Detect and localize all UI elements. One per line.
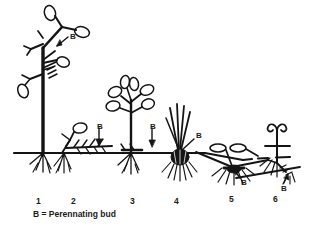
- plant-number-2: 2: [71, 196, 76, 206]
- plant-number-6: 6: [273, 194, 278, 204]
- figure-caption: B = Perennating bud: [33, 209, 116, 219]
- bud-label-4: B: [196, 131, 202, 140]
- plant-5-rhizome: [196, 144, 268, 185]
- plant-number-3: 3: [130, 196, 135, 206]
- ground-line: [14, 153, 300, 178]
- plant-number-5: 5: [229, 194, 234, 204]
- plant-3-roots: [118, 153, 139, 174]
- plant-4-bulb-body: [171, 149, 189, 165]
- plant-1-roots: [30, 153, 51, 173]
- plant-4-bulb: [162, 104, 197, 181]
- plant-number-4: 4: [174, 196, 179, 206]
- bud-label-1: B: [70, 32, 76, 41]
- plant-2-stolon: [66, 139, 112, 154]
- figure-canvas: B B B B B B 1 2 3 4 5 6 B = Perennating …: [0, 0, 312, 234]
- bud-label-2: B: [97, 122, 103, 131]
- plant-4-roots: [162, 162, 197, 181]
- bud-label-6: B: [281, 184, 287, 193]
- plant-3-upright-herb: [105, 75, 155, 174]
- plant-life-form-diagram: [0, 0, 312, 234]
- bud-label-5: B: [241, 178, 247, 187]
- plant-2-roots: [54, 153, 71, 173]
- plant-number-1: 1: [36, 196, 41, 206]
- bud-label-3: B: [150, 122, 156, 131]
- plant-2-creeping-herb: [54, 122, 112, 173]
- plant-6-coiled-shoot: [260, 124, 295, 184]
- bud-arrow-1: [57, 37, 68, 46]
